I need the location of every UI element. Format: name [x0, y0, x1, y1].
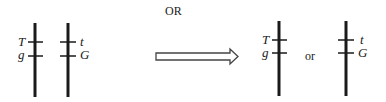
- or-heading: OR: [165, 5, 182, 17]
- left-chromosome-2: [60, 23, 76, 97]
- right-arrow-icon: [156, 49, 238, 64]
- left-chr1-lower-allele: g: [18, 48, 25, 61]
- or-separator: or: [305, 50, 315, 62]
- left-chr2-lower-allele: G: [80, 48, 89, 61]
- diagram-canvas: [0, 0, 386, 102]
- result-chromosome-2: [338, 21, 354, 96]
- left-chromosome-1: [28, 23, 43, 97]
- result-chromosome-1: [272, 21, 287, 96]
- result-opt2-lower-allele: G: [358, 46, 367, 59]
- result-opt1-lower-allele: g: [262, 46, 269, 59]
